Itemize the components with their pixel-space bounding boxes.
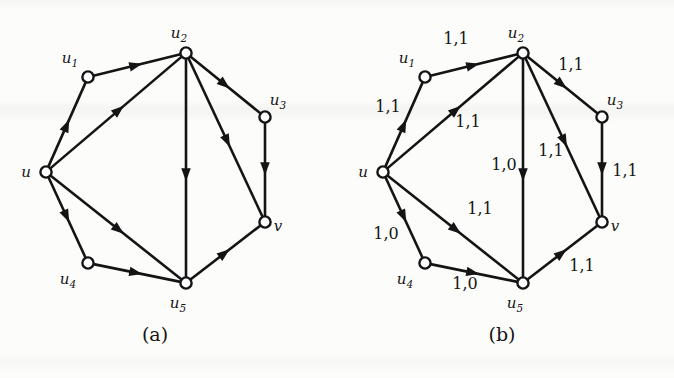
node-label: u5 — [507, 294, 524, 314]
panel-caption: (a) — [142, 323, 168, 345]
edge-arrowhead — [128, 62, 142, 71]
graph-panel-b: 1,11,11,11,11,01,11,11,01,11,01,1uu1u2u3… — [337, 0, 674, 378]
edge-weight-label: 1,0 — [491, 155, 516, 174]
edge-weight-label: 1,1 — [612, 161, 637, 180]
graph-node — [82, 257, 93, 268]
graph-node — [82, 71, 93, 82]
graph-node — [377, 166, 388, 177]
node-label: u — [21, 163, 31, 181]
node-label: v — [274, 217, 283, 235]
graph-node — [517, 47, 528, 58]
edge-arrowhead — [59, 209, 69, 223]
edge-weight-label: 1,0 — [373, 224, 398, 243]
node-layer — [40, 47, 270, 288]
node-label: u4 — [60, 270, 76, 290]
node-label: u2 — [171, 24, 188, 44]
edge-weight-label: 1,1 — [443, 29, 468, 48]
edge-arrowhead — [597, 162, 607, 175]
edge-weight-label: 1,1 — [375, 97, 400, 116]
graph-node — [259, 216, 270, 227]
edge-weight-label: 1,1 — [569, 256, 594, 275]
node-label: u5 — [170, 294, 187, 314]
edge-weight-label: 1,1 — [455, 112, 480, 131]
node-label: u3 — [607, 91, 624, 111]
node-label: v — [611, 217, 620, 235]
figure-root: uu1u2u3u4u5v(a) 1,11,11,11,11,01,11,11,0… — [0, 0, 674, 378]
node-label: u1 — [399, 49, 415, 69]
edge-arrowhead — [60, 119, 70, 133]
graph-node — [596, 111, 607, 122]
edge-weight-label: 1,1 — [467, 199, 492, 218]
edge-layer — [48, 54, 265, 282]
node-label: u3 — [270, 91, 287, 111]
edge-arrowhead — [518, 168, 528, 181]
edge-arrowhead — [220, 133, 230, 147]
edge-weight-label: 1,1 — [538, 141, 563, 160]
edge-arrowhead — [260, 162, 270, 175]
graph-node — [517, 277, 528, 288]
node-label: u1 — [62, 49, 78, 69]
edge-weight-label: 1,1 — [558, 55, 583, 74]
node-label: u — [358, 163, 368, 181]
graph-panel-a: uu1u2u3u4u5v(a) — [0, 0, 337, 378]
graph-node — [596, 216, 607, 227]
node-label: u4 — [397, 270, 413, 290]
graph-node — [40, 166, 51, 177]
graph-node — [419, 71, 430, 82]
graph-node — [180, 277, 191, 288]
node-label: u2 — [508, 24, 525, 44]
edge-weight-label: 1,0 — [452, 274, 477, 293]
graph-node — [259, 111, 270, 122]
graph-node — [180, 47, 191, 58]
panel-caption: (b) — [489, 323, 516, 345]
edge-arrowhead — [181, 168, 191, 181]
edge-arrowhead — [465, 62, 479, 71]
graph-node — [419, 257, 430, 268]
edge-arrowhead — [397, 119, 407, 133]
edge-arrowhead — [396, 209, 406, 223]
